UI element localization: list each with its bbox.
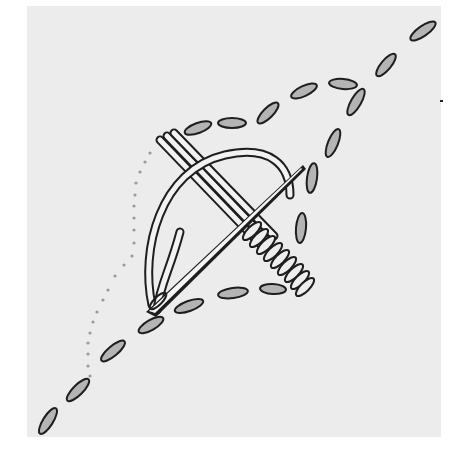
guide-dot <box>88 374 91 377</box>
guide-dot <box>101 298 104 301</box>
guide-dot <box>86 364 89 367</box>
stitch-dash <box>218 118 246 128</box>
bullion-knot-illustration <box>0 0 462 452</box>
guide-dot <box>134 181 137 184</box>
guide-dot <box>95 310 98 313</box>
guide-dot <box>132 228 135 231</box>
guide-dot <box>143 160 146 163</box>
guide-dot <box>106 288 109 291</box>
guide-dot <box>148 151 151 154</box>
guide-dot <box>133 193 136 196</box>
stitch-dash <box>260 283 286 294</box>
guide-dot <box>86 341 89 344</box>
guide-dot <box>132 216 135 219</box>
guide-dot <box>113 274 116 277</box>
guide-dot <box>86 352 89 355</box>
guide-dot <box>132 204 135 207</box>
guide-dot <box>132 241 135 244</box>
guide-dot <box>130 254 133 257</box>
guide-dot <box>91 320 94 323</box>
guide-dot <box>138 170 141 173</box>
guide-dot <box>122 263 125 266</box>
guide-dot <box>88 331 91 334</box>
speck-mark <box>440 100 443 102</box>
